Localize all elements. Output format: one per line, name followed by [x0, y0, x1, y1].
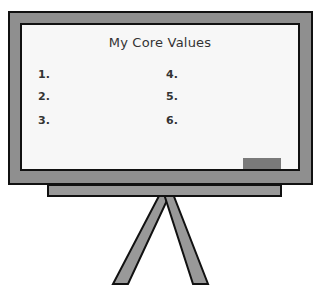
eraser [243, 158, 281, 169]
value-item-4: 4. [166, 68, 178, 81]
whiteboard: My Core Values 1. 2. 3. 4. 5. 6. [20, 23, 300, 171]
board-title: My Core Values [22, 35, 298, 50]
right-leg [164, 194, 208, 284]
value-item-1: 1. [38, 68, 50, 81]
value-item-5: 5. [166, 90, 178, 103]
whiteboard-tray [47, 184, 282, 197]
value-item-6: 6. [166, 114, 178, 127]
left-leg [113, 194, 170, 284]
value-item-2: 2. [38, 90, 50, 103]
value-item-3: 3. [38, 114, 50, 127]
